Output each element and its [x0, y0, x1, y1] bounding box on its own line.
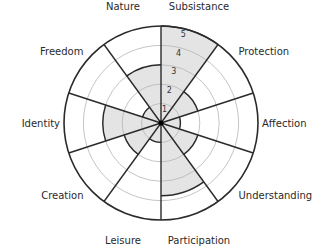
- radial-tick-label: 4: [176, 49, 181, 58]
- category-label: Protection: [239, 46, 290, 57]
- category-label: Subsistance: [169, 1, 229, 12]
- category-label: Affection: [262, 118, 307, 129]
- category-label: Identity: [22, 118, 60, 129]
- category-label: Participation: [168, 235, 230, 246]
- radial-tick-label: 3: [171, 67, 176, 76]
- category-label: Freedom: [40, 46, 83, 57]
- radial-tick-label: 2: [167, 86, 172, 95]
- category-label: Understanding: [239, 190, 313, 201]
- category-label: Nature: [106, 1, 140, 12]
- radial-tick-label: 1: [162, 105, 167, 114]
- category-label: Leisure: [105, 235, 141, 246]
- polar-area-chart: 12345SubsistanceProtectionAffectionUnder…: [0, 0, 327, 252]
- category-label: Creation: [41, 190, 83, 201]
- radial-tick-label: 5: [181, 30, 186, 39]
- chart-canvas: 12345SubsistanceProtectionAffectionUnder…: [0, 0, 327, 252]
- center-dot: [159, 121, 164, 126]
